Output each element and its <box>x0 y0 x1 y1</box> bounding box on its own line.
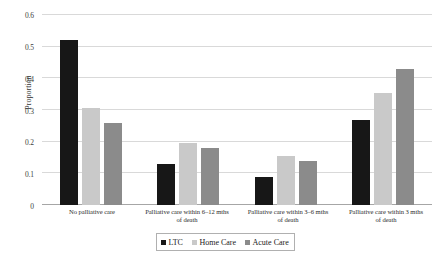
x-axis-label-2: Palliative care within 3–6 mths of death <box>233 208 343 225</box>
x-axis-label-0-line-0: No palliative care <box>44 208 140 216</box>
x-axis-label-3-line-0: Palliative care within 3 mths <box>332 208 440 216</box>
x-axis-label-3-line-1: of death <box>332 216 440 224</box>
bar-acute-care-group-2 <box>299 161 317 205</box>
legend-swatch-icon-home-care <box>192 240 197 245</box>
y-tick-label-5: 0.5 <box>8 43 34 52</box>
x-axis-label-0: No palliative care <box>44 208 140 216</box>
legend-swatch-icon-ltc <box>161 240 166 245</box>
x-axis-label-1-line-0: Palliative care within 6–12 mths <box>132 208 242 216</box>
legend-item-acute-care: Acute Care <box>245 238 289 247</box>
bar-home-care-group-1 <box>179 143 197 205</box>
x-axis-label-1-line-1: of death <box>132 216 242 224</box>
legend-item-home-care: Home Care <box>192 238 236 247</box>
bar-home-care-group-2 <box>277 156 295 205</box>
bar-group-3 <box>335 15 433 205</box>
bar-home-care-group-0 <box>82 108 100 205</box>
bar-ltc-group-0 <box>60 40 78 205</box>
bar-acute-care-group-3 <box>396 69 414 205</box>
bar-ltc-group-2 <box>255 177 273 206</box>
x-axis-label-2-line-1: of death <box>233 216 343 224</box>
chart-legend: LTC Home Care Acute Care <box>156 233 295 251</box>
x-axis-label-3: Palliative care within 3 mths of death <box>332 208 440 225</box>
x-axis-label-1: Palliative care within 6–12 mths of deat… <box>132 208 242 225</box>
y-tick-label-6: 0.6 <box>8 11 34 20</box>
y-tick-label-3: 0.3 <box>8 107 34 116</box>
legend-swatch-icon-acute-care <box>245 240 250 245</box>
bar-group-0 <box>42 15 140 205</box>
x-axis-label-2-line-0: Palliative care within 3–6 mths <box>233 208 343 216</box>
bar-home-care-group-3 <box>374 93 392 205</box>
bar-acute-care-group-1 <box>201 148 219 205</box>
legend-label-home-care: Home Care <box>199 238 236 247</box>
bar-group-1 <box>140 15 238 205</box>
y-tick-label-2: 0.2 <box>8 138 34 147</box>
bar-acute-care-group-0 <box>104 123 122 205</box>
y-tick-label-1: 0.1 <box>8 170 34 179</box>
legend-label-ltc: LTC <box>169 238 183 247</box>
legend-item-ltc: LTC <box>161 238 183 247</box>
bar-chart: Proportion 0 0.1 0.2 0.3 0.4 0.5 0.6 No … <box>0 0 442 266</box>
y-tick-label-0: 0 <box>8 202 34 211</box>
bar-group-2 <box>237 15 335 205</box>
legend-label-acute-care: Acute Care <box>253 238 289 247</box>
bar-ltc-group-3 <box>352 120 370 206</box>
plot-area <box>42 15 432 205</box>
bar-ltc-group-1 <box>157 164 175 205</box>
y-tick-label-4: 0.4 <box>8 75 34 84</box>
